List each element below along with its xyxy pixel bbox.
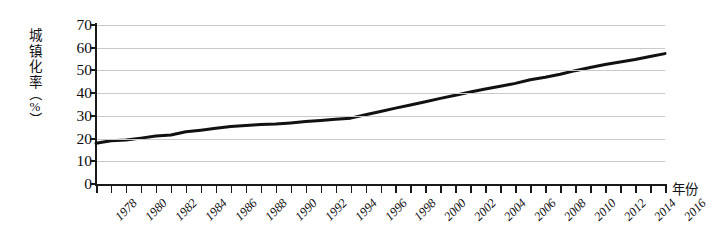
gridline-y-50 [96,70,665,71]
x-tick-1986 [216,186,218,193]
y-axis-title: 城 镇 化 率 （ % ） [22,28,48,123]
x-tick-1982 [156,186,158,193]
x-tick-label-1982: 1982 [172,196,200,224]
x-tick-1978 [96,186,98,193]
x-tick-2011 [590,186,592,193]
gridline-y-60 [96,48,665,49]
y-axis-tick-labels: 010203040506070 [52,25,92,184]
y-axis-title-paren-open: （ [31,82,40,108]
x-tick-label-1998: 1998 [412,196,440,224]
y-tick-20 [90,138,97,140]
x-tick-2013 [620,186,622,193]
y-tick-30 [90,115,97,117]
x-tick-1987 [231,186,233,193]
x-tick-label-1992: 1992 [322,196,350,224]
urbanization-rate-line-chart: 城 镇 化 率 （ % ） 010203040506070 1978198019… [0,0,713,248]
x-axis-title: 年份 [672,178,698,198]
x-tick-1999 [410,186,412,193]
x-tick-2016 [665,186,667,193]
x-tick-label-1978: 1978 [112,196,140,224]
x-tick-2009 [560,186,562,193]
x-tick-1994 [336,186,338,193]
x-tick-2007 [530,186,532,193]
x-tick-label-2016: 2016 [681,196,709,224]
gridline-y-40 [96,93,665,94]
x-tick-1990 [276,186,278,193]
x-tick-1997 [381,186,383,193]
x-tick-2014 [635,186,637,193]
x-tick-1992 [306,186,308,193]
series-line [96,54,665,144]
y-axis-title-char-0: 城 [22,28,48,44]
x-tick-label-2012: 2012 [621,196,649,224]
x-axis-tick-labels: 1978198019821984198619881990199219941996… [96,196,665,246]
x-tick-2004 [485,186,487,193]
x-tick-1983 [171,186,173,193]
x-tick-1985 [201,186,203,193]
gridline-y-0 [96,184,665,185]
x-tick-1984 [186,186,188,193]
x-tick-2010 [575,186,577,193]
y-tick-40 [90,92,97,94]
x-tick-label-1984: 1984 [202,196,230,224]
x-tick-1980 [126,186,128,193]
y-tick-50 [90,69,97,71]
x-tick-label-2002: 2002 [472,196,500,224]
y-tick-10 [90,160,97,162]
x-tick-label-1980: 1980 [142,196,170,224]
x-tick-label-2006: 2006 [532,196,560,224]
y-tick-70 [90,24,97,26]
x-tick-label-2014: 2014 [651,196,679,224]
x-tick-1993 [321,186,323,193]
x-tick-1996 [366,186,368,193]
urbanization-rate-series [96,25,665,184]
x-tick-1988 [246,186,248,193]
x-tick-label-2008: 2008 [562,196,590,224]
x-tick-label-1990: 1990 [292,196,320,224]
x-tick-2006 [515,186,517,193]
x-tick-2005 [500,186,502,193]
x-tick-2012 [605,186,607,193]
x-tick-label-1994: 1994 [352,196,380,224]
y-axis-title-char-2: 化 [22,59,48,75]
x-tick-label-2010: 2010 [591,196,619,224]
plot-area [96,25,665,184]
x-tick-2002 [455,186,457,193]
x-tick-2008 [545,186,547,193]
x-axis-ticks [96,186,665,194]
x-tick-label-1986: 1986 [232,196,260,224]
x-tick-1991 [291,186,293,193]
x-tick-label-1988: 1988 [262,196,290,224]
x-tick-2000 [425,186,427,193]
y-tick-0 [90,183,97,185]
x-tick-label-2004: 2004 [502,196,530,224]
x-tick-label-1996: 1996 [382,196,410,224]
x-tick-2001 [440,186,442,193]
x-tick-1998 [395,186,397,193]
x-tick-1979 [111,186,113,193]
gridline-y-20 [96,139,665,140]
x-tick-1995 [351,186,353,193]
x-tick-1989 [261,186,263,193]
y-tick-60 [90,47,97,49]
y-axis-title-paren-close: ） [31,106,40,132]
gridline-y-30 [96,116,665,117]
x-tick-label-2000: 2000 [442,196,470,224]
gridline-y-10 [96,161,665,162]
gridline-y-70 [96,25,665,26]
x-tick-2003 [470,186,472,193]
x-tick-2015 [650,186,652,193]
y-axis-title-char-1: 镇 [22,44,48,60]
x-tick-1981 [141,186,143,193]
